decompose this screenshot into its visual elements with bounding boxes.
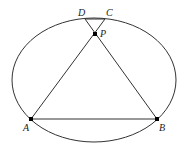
ellipse-diagram: D C P A B — [0, 0, 185, 153]
label-b: B — [159, 122, 165, 133]
label-d: D — [77, 7, 86, 18]
label-c: C — [106, 7, 113, 18]
point-p-marker — [93, 32, 97, 36]
ellipse — [12, 18, 176, 142]
point-b-marker — [155, 117, 159, 121]
point-a-marker — [29, 117, 33, 121]
label-a: A — [22, 122, 30, 133]
label-p: P — [99, 28, 106, 39]
